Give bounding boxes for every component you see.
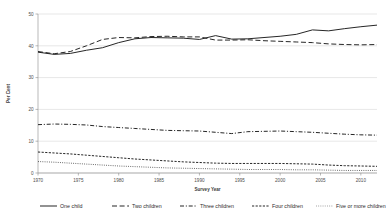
x-axis-title: Survey Year <box>194 187 220 192</box>
y-axis-ticks: 01020304050 <box>28 12 38 176</box>
x-axis-ticks: 197019751980198519901995200020052010 <box>33 173 367 183</box>
y-tick-label-40: 40 <box>28 44 34 49</box>
x-tick-label-1990: 1990 <box>194 178 205 183</box>
x-tick-label-2000: 2000 <box>275 178 286 183</box>
series-line-0 <box>38 25 377 54</box>
x-tick-label-1980: 1980 <box>114 178 125 183</box>
x-tick-label-1975: 1975 <box>73 178 84 183</box>
legend-label-0: One child <box>60 203 82 209</box>
legend-label-2: Three children <box>200 203 234 209</box>
chart-legend: One childTwo childrenThree childrenFour … <box>40 203 386 209</box>
y-axis-group: 01020304050 <box>28 12 38 176</box>
y-tick-label-20: 20 <box>28 107 34 112</box>
data-series-group <box>38 25 377 170</box>
x-tick-label-1985: 1985 <box>154 178 165 183</box>
series-line-1 <box>38 36 377 53</box>
x-axis-group: 197019751980198519901995200020052010 <box>33 173 377 183</box>
y-axis-title: Per Cent <box>6 84 11 103</box>
x-tick-label-2010: 2010 <box>356 178 367 183</box>
line-chart: 01020304050 1970197519801985199019952000… <box>0 0 388 219</box>
y-tick-label-30: 30 <box>28 75 34 80</box>
legend-label-1: Two children <box>132 203 162 209</box>
legend-label-3: Four children <box>272 203 303 209</box>
x-tick-label-1995: 1995 <box>235 178 246 183</box>
legend-label-4: Five or more children <box>336 203 386 209</box>
y-tick-label-50: 50 <box>28 12 34 17</box>
chart-container: 01020304050 1970197519801985199019952000… <box>0 0 388 219</box>
y-tick-label-10: 10 <box>28 139 34 144</box>
x-tick-label-2005: 2005 <box>315 178 326 183</box>
series-line-2 <box>38 124 377 135</box>
x-tick-label-1970: 1970 <box>33 178 44 183</box>
y-tick-label-0: 0 <box>31 171 34 176</box>
